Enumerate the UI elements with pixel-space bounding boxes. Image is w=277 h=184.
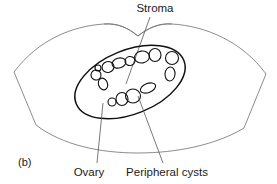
ultrasound-sector-field [14,24,266,153]
leader-line-ovary [97,103,103,163]
peripheral-cyst-group [90,49,179,107]
sector-near-field-arc [104,24,172,36]
cyst [164,67,175,82]
label-stroma: Stroma [136,2,174,14]
figure-panel: Stroma Ovary Peripheral cysts (b) [0,0,277,184]
leader-line-stroma [126,17,150,84]
ovary-outline [64,31,196,134]
cyst [134,50,151,64]
polycystic-ovary-diagram: Stroma Ovary Peripheral cysts (b) [0,0,277,184]
cyst [108,98,116,106]
cyst [149,49,161,62]
cyst [166,52,179,65]
label-peripheral-cysts: Peripheral cysts [126,166,208,178]
panel-letter: (b) [18,156,31,168]
label-ovary: Ovary [74,166,105,178]
cyst [139,81,157,95]
sector-outline-path [14,24,266,153]
